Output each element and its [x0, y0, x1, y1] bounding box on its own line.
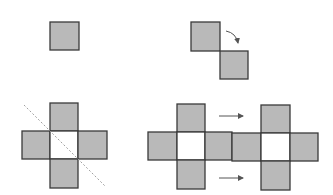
curved-arrow-icon: [226, 31, 238, 43]
panel-two-squares-rotate: [191, 22, 248, 79]
panel-single-square: [50, 22, 79, 50]
tiling-diagram: [0, 0, 333, 195]
panel-cross-with-axis: [22, 103, 107, 188]
panel-two-crosses-translate: [148, 104, 318, 190]
